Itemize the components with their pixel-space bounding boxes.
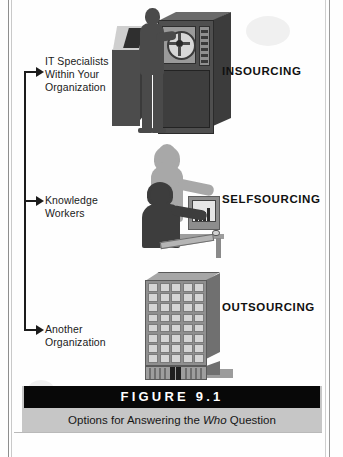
window [183, 344, 193, 353]
person-leg [142, 70, 152, 132]
base-column [190, 368, 192, 379]
page-edge-left-outer [8, 0, 9, 457]
control-led [201, 54, 208, 57]
base-column [200, 368, 202, 379]
window [171, 334, 181, 343]
window [194, 314, 204, 323]
window [194, 324, 204, 333]
heading-selfsourcing: SELFSOURCING [222, 193, 321, 205]
window [183, 354, 193, 363]
base-column [159, 368, 161, 379]
window [160, 283, 170, 292]
window [183, 314, 193, 323]
window [160, 354, 170, 363]
standing-person-head [158, 144, 176, 164]
base-column [195, 368, 197, 379]
page-edge-right-inner [325, 0, 326, 457]
window [148, 324, 158, 333]
window [194, 354, 204, 363]
base-column [185, 368, 187, 379]
window [194, 344, 204, 353]
page-edge-right-outer [329, 0, 330, 457]
arrow-right-icon [36, 67, 44, 77]
window [183, 324, 193, 333]
window [194, 293, 204, 302]
window [194, 303, 204, 312]
control-led [201, 60, 208, 63]
window [194, 334, 204, 343]
row-label-line: Organization [45, 81, 109, 94]
window [171, 314, 181, 323]
window [160, 324, 170, 333]
seated-person-head [150, 184, 170, 206]
window [160, 344, 170, 353]
person-foot [151, 128, 166, 133]
figure-number: FIGURE 9.1 [24, 386, 320, 408]
window [160, 303, 170, 312]
mouse [212, 230, 220, 236]
building-window-grid [148, 283, 204, 363]
screen-chart-bar [207, 208, 210, 221]
it-specialist-silhouette [136, 4, 170, 134]
window [171, 324, 181, 333]
row-label-line: Workers [45, 207, 98, 220]
scan-smudge [246, 16, 290, 46]
window [148, 293, 158, 302]
window [171, 354, 181, 363]
caption-part-before: Options for Answering the [68, 414, 203, 426]
page-edge-left-inner [11, 0, 12, 457]
person-torso [140, 23, 164, 75]
window [171, 293, 181, 302]
row-label-line: IT Specialists [45, 55, 109, 68]
heading-insourcing: INSOURCING [222, 65, 301, 77]
heading-outsourcing: OUTSOURCING [222, 301, 315, 313]
control-led [201, 36, 208, 39]
base-column [149, 368, 151, 379]
illustration-outsourcing [137, 266, 241, 384]
control-led [201, 42, 208, 45]
caption-part-after: Question [227, 414, 276, 426]
row-label-line: Organization [45, 336, 106, 349]
window [171, 283, 181, 292]
row-label-line: Another [45, 323, 106, 336]
row-label-outsourcing: Another Organization [45, 323, 106, 349]
row-label-line: Within Your [45, 68, 109, 81]
caption-emphasis: Who [203, 414, 227, 426]
window [183, 334, 193, 343]
window [171, 303, 181, 312]
window [171, 344, 181, 353]
window [194, 283, 204, 292]
window [148, 314, 158, 323]
window [148, 354, 158, 363]
window [148, 334, 158, 343]
person-leg [153, 70, 163, 132]
window [148, 303, 158, 312]
window [183, 293, 193, 302]
row-label-insourcing: IT Specialists Within Your Organization [45, 55, 109, 94]
base-column [164, 368, 166, 379]
figure-caption: Options for Answering the Who Question [24, 409, 320, 431]
window [148, 344, 158, 353]
control-led [201, 48, 208, 51]
tape-reel-hub [176, 40, 183, 47]
tape-reel-spoke [178, 47, 181, 56]
building-base-side [206, 361, 220, 375]
window [160, 334, 170, 343]
page-bottom-rule [14, 432, 322, 433]
row-label-selfsourcing: Knowledge Workers [45, 194, 98, 220]
figure-page: IT Specialists Within Your Organization [0, 0, 343, 457]
arrow-right-icon [36, 196, 44, 206]
building-entrance-divider [175, 367, 176, 380]
window [160, 314, 170, 323]
arrow-right-icon [36, 325, 44, 335]
window [160, 293, 170, 302]
building-side-wall [206, 273, 220, 359]
base-column [154, 368, 156, 379]
window [183, 283, 193, 292]
desk-leg [216, 238, 221, 258]
row-label-line: Knowledge [45, 194, 98, 207]
window [183, 303, 193, 312]
window [148, 283, 158, 292]
control-led [201, 30, 208, 33]
